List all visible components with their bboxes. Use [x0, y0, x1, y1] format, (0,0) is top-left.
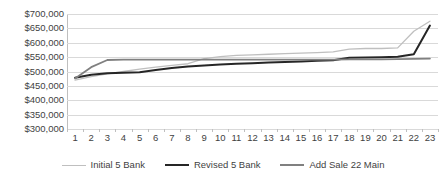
- legend-line-swatch: [280, 164, 304, 166]
- y-axis-tick-label: $300,000: [2, 124, 64, 134]
- x-axis-tick-mark: [357, 129, 358, 132]
- series-lines: [67, 14, 438, 129]
- x-axis-tick-mark: [373, 129, 374, 132]
- x-axis-tick-mark: [325, 129, 326, 132]
- x-axis-tick-mark: [83, 129, 84, 132]
- y-axis-tick-label: $350,000: [2, 110, 64, 120]
- x-axis-tick-mark: [132, 129, 133, 132]
- legend-item[interactable]: Initial 5 Bank: [62, 160, 145, 170]
- x-axis-tick-mark: [164, 129, 165, 132]
- legend-item[interactable]: Add Sale 22 Main: [280, 160, 384, 170]
- x-axis-tick-mark: [390, 129, 391, 132]
- y-axis-tick-label: $500,000: [2, 67, 64, 77]
- x-axis-tick-mark: [212, 129, 213, 132]
- x-axis-tick-mark: [180, 129, 181, 132]
- x-axis-tick-mark: [228, 129, 229, 132]
- x-axis-tick-mark: [67, 129, 68, 132]
- x-axis-tick-mark: [196, 129, 197, 132]
- x-axis-tick-mark: [99, 129, 100, 132]
- legend-line-swatch: [62, 165, 86, 166]
- y-axis-tick-label: $600,000: [2, 38, 64, 48]
- x-axis-tick-mark: [406, 129, 407, 132]
- x-axis-tick-mark: [277, 129, 278, 132]
- x-axis-tick-mark: [148, 129, 149, 132]
- y-axis-tick-label: $550,000: [2, 52, 64, 62]
- legend-item-label: Add Sale 22 Main: [309, 160, 384, 170]
- y-axis-tick-label: $700,000: [2, 9, 64, 19]
- x-axis-tick-mark: [422, 129, 423, 132]
- chart-legend: Initial 5 BankRevised 5 BankAdd Sale 22 …: [0, 160, 446, 170]
- legend-item-label: Revised 5 Bank: [194, 160, 261, 170]
- legend-item-label: Initial 5 Bank: [91, 160, 145, 170]
- x-axis-tick-mark: [438, 129, 439, 132]
- series-line-1: [75, 26, 430, 78]
- series-line-0: [75, 21, 430, 80]
- gridline: [67, 129, 438, 130]
- legend-line-swatch: [165, 164, 189, 166]
- series-line-2: [75, 59, 430, 79]
- x-axis-tick-mark: [341, 129, 342, 132]
- x-axis-tick-mark: [244, 129, 245, 132]
- x-axis-tick-label: 23: [421, 133, 439, 143]
- y-axis-tick-label: $450,000: [2, 81, 64, 91]
- line-chart: $700,000$650,000$600,000$550,000$500,000…: [0, 0, 446, 184]
- legend-item[interactable]: Revised 5 Bank: [165, 160, 261, 170]
- x-axis-tick-mark: [293, 129, 294, 132]
- x-axis-tick-mark: [309, 129, 310, 132]
- y-axis-tick-label: $400,000: [2, 95, 64, 105]
- x-axis-tick-mark: [115, 129, 116, 132]
- x-axis-tick-mark: [261, 129, 262, 132]
- y-axis-tick-label: $650,000: [2, 23, 64, 33]
- plot-area: [67, 14, 438, 129]
